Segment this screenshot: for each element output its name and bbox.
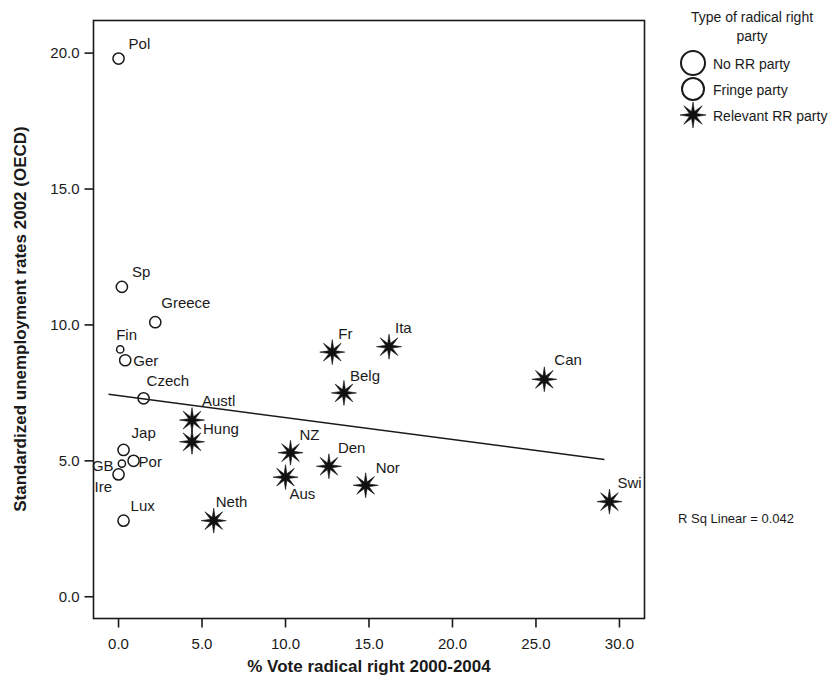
point-label-hung: Hung <box>203 420 239 437</box>
x-tick-label: 5.0 <box>192 635 213 652</box>
point-label-fin: Fin <box>116 326 137 343</box>
point-label-swi: Swi <box>617 474 641 491</box>
point-label-greece: Greece <box>161 294 210 311</box>
point-label-fr: Fr <box>338 325 352 342</box>
point-label-austl: Austl <box>202 392 235 409</box>
marker-nz <box>278 440 303 465</box>
y-tick-label: 0.0 <box>59 588 80 605</box>
point-label-por: Por <box>139 453 162 470</box>
legend-star-glyph <box>680 102 706 128</box>
legend-marker-fringe-party <box>682 78 704 100</box>
marker-ire <box>113 469 124 480</box>
point-label-sp: Sp <box>132 263 150 280</box>
scatter-plot: 0.05.010.015.020.025.030.0 0.05.010.015.… <box>0 0 832 696</box>
legend-label-fringe-party: Fringe party <box>713 82 788 98</box>
legend-label-no-rr-party: No RR party <box>713 56 790 72</box>
marker-fr <box>320 340 345 365</box>
legend-marker-relevant-rr-party <box>680 102 706 128</box>
point-label-gb: GB <box>92 457 114 474</box>
plot-frame <box>94 21 645 619</box>
x-tick-label: 20.0 <box>438 635 467 652</box>
point-label-den: Den <box>338 439 366 456</box>
point-label-nor: Nor <box>376 459 400 476</box>
marker-jap <box>118 444 129 455</box>
legend-marker-no-rr-party <box>681 51 705 75</box>
y-axis-ticks: 0.05.010.015.020.0 <box>50 44 93 605</box>
marker-por <box>128 455 139 466</box>
chart-page: 0.05.010.015.020.025.030.0 0.05.010.015.… <box>0 0 832 696</box>
legend-title-line2: party <box>736 28 767 44</box>
legend: Type of radical right party No RR party … <box>680 9 827 128</box>
point-label-pol: Pol <box>129 35 151 52</box>
marker-den <box>316 454 341 479</box>
x-axis-title: % Vote radical right 2000-2004 <box>247 657 491 676</box>
marker-ger <box>120 355 131 366</box>
x-tick-label: 25.0 <box>521 635 550 652</box>
point-label-can: Can <box>554 351 582 368</box>
legend-title-line1: Type of radical right <box>691 9 813 25</box>
data-points: PolSpGreeceGerCzechJapPorIreLuxFinGBFrIt… <box>92 35 642 534</box>
point-label-nz: NZ <box>300 426 320 443</box>
marker-lux <box>118 515 129 526</box>
marker-can <box>532 367 557 392</box>
y-axis-title: Standardized unemployment rates 2002 (OE… <box>11 126 30 511</box>
x-tick-label: 30.0 <box>605 635 634 652</box>
marker-belg <box>331 380 356 405</box>
marker-fin <box>117 346 124 353</box>
point-label-ger: Ger <box>133 352 158 369</box>
marker-austl <box>180 408 205 433</box>
point-label-ita: Ita <box>395 319 412 336</box>
y-tick-label: 5.0 <box>59 452 80 469</box>
y-tick-label: 20.0 <box>50 44 79 61</box>
x-tick-label: 0.0 <box>108 635 129 652</box>
x-axis-ticks: 0.05.010.015.020.025.030.0 <box>108 619 634 652</box>
marker-hung <box>180 429 205 454</box>
marker-ita <box>377 334 402 359</box>
point-label-belg: Belg <box>350 367 380 384</box>
marker-pol <box>113 53 124 64</box>
point-label-lux: Lux <box>131 497 156 514</box>
y-tick-label: 15.0 <box>50 180 79 197</box>
r-squared-annotation: R Sq Linear = 0.042 <box>678 511 794 526</box>
y-tick-label: 10.0 <box>50 316 79 333</box>
marker-swi <box>597 489 622 514</box>
marker-gb <box>118 460 125 467</box>
marker-neth <box>201 508 226 533</box>
point-label-ire: Ire <box>95 478 113 495</box>
point-label-neth: Neth <box>216 493 248 510</box>
point-label-jap: Jap <box>132 424 156 441</box>
x-tick-label: 15.0 <box>354 635 383 652</box>
x-tick-label: 10.0 <box>271 635 300 652</box>
point-label-aus: Aus <box>290 485 316 502</box>
marker-greece <box>150 317 161 328</box>
point-label-czech: Czech <box>147 372 190 389</box>
legend-label-relevant-rr-party: Relevant RR party <box>713 108 827 124</box>
marker-nor <box>353 473 378 498</box>
marker-sp <box>116 281 127 292</box>
